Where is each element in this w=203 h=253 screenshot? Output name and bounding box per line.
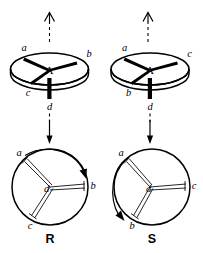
top-label-b-r: b [86,48,91,59]
panel-s: A a c b d [111,13,197,247]
transition-arrow-s [147,120,153,144]
projection-bonds-s [124,158,186,220]
center-atom-label-s: A [146,64,154,76]
panel-r: A a b c d [11,13,96,247]
projection-label-c-s: c [192,180,197,191]
top-label-d-r: d [47,101,53,112]
figure-canvas: A a b c d [0,0,203,253]
projection-label-a-s: a [118,147,123,158]
eye-view-arrow-up-icon-s [143,13,153,45]
projection-label-b-r: b [90,180,95,191]
transition-arrow-r [46,120,52,144]
config-label-r: R [45,232,54,246]
projection-bonds-r [22,158,85,220]
top-label-b-s: b [126,87,131,98]
rotation-arrow-clockwise-r [25,149,87,178]
projection-center-label-r: d [44,183,50,194]
eye-view-arrow-up-icon-r [45,13,55,45]
projection-label-a-r: a [16,147,21,158]
projection-center-label-s: d [146,183,152,194]
top-label-a-s: a [122,42,127,53]
rotation-arrow-counterclockwise-s [113,158,129,222]
config-label-s: S [148,232,156,246]
projection-label-c-r: c [28,220,33,231]
top-label-c-s: c [187,48,192,59]
top-label-d-s: d [147,101,153,112]
top-label-c-r: c [26,87,31,98]
center-atom-label-r: A [46,64,54,76]
top-label-a-r: a [21,42,26,53]
projection-label-b-s: b [129,220,134,231]
stereochemistry-figure: A a b c d [0,0,203,253]
